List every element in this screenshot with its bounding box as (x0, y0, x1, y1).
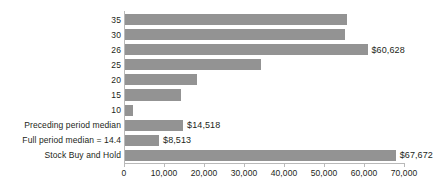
bar-category-label: Full period median = 14.4 (22, 136, 121, 145)
bar-track: $67,672 (125, 148, 427, 163)
x-axis-tick (404, 164, 405, 167)
bar-track: $8,513 (125, 133, 427, 148)
bar (125, 59, 261, 70)
bar-row: 20 (0, 72, 427, 87)
x-axis-tick-label: 40,000 (271, 169, 298, 178)
bar-row: 25 (0, 57, 427, 72)
bar-rows: 353026$60,62825201510Preceding period me… (0, 12, 427, 163)
x-axis-tick (364, 164, 365, 167)
x-axis-tick (124, 164, 125, 167)
x-axis-tick (284, 164, 285, 167)
bar-row: Stock Buy and Hold$67,672 (0, 148, 427, 163)
bar-category-label: 15 (111, 91, 121, 100)
bar-value-label: $14,518 (187, 121, 220, 130)
bar-value-label: $60,628 (372, 45, 405, 54)
bar-track (125, 27, 427, 42)
bar-row: 35 (0, 12, 427, 27)
bar-track: $14,518 (125, 118, 427, 133)
bar-track (125, 103, 427, 118)
bar-value-label: $8,513 (163, 136, 191, 145)
bar-category-label: 26 (111, 45, 121, 54)
x-axis-tick-label: 0 (122, 169, 127, 178)
bar-row: 26$60,628 (0, 42, 427, 57)
bar-track (125, 57, 427, 72)
x-axis-tick-label: 20,000 (191, 169, 218, 178)
bar-value-label: $67,672 (400, 151, 433, 160)
bar-track: $60,628 (125, 42, 427, 57)
x-axis-tick-labels: 010,00020,00030,00040,00050,00060,00070,… (124, 169, 404, 183)
x-axis-tick-label: 10,000 (151, 169, 178, 178)
bar-track (125, 12, 427, 27)
bar (125, 120, 183, 131)
bar (125, 74, 197, 85)
x-axis-tick-label: 60,000 (351, 169, 378, 178)
bar-category-label: Preceding period median (24, 121, 121, 130)
bar (125, 44, 368, 55)
bar-row: 10 (0, 103, 427, 118)
bar-category-label: 25 (111, 61, 121, 70)
bar-track (125, 87, 427, 102)
bar-row: Full period median = 14.4$8,513 (0, 133, 427, 148)
bar-track (125, 72, 427, 87)
x-axis-tick (164, 164, 165, 167)
bar-row: Preceding period median$14,518 (0, 118, 427, 133)
bar (125, 29, 345, 40)
bar-category-label: 30 (111, 30, 121, 39)
bar-category-label: 10 (111, 106, 121, 115)
bar-row: 15 (0, 87, 427, 102)
bar (125, 89, 181, 100)
x-axis-tick (324, 164, 325, 167)
bar-category-label: 20 (111, 76, 121, 85)
x-axis-tick-label: 50,000 (311, 169, 338, 178)
bar (125, 105, 133, 116)
bar-row: 30 (0, 27, 427, 42)
x-axis-tick (204, 164, 205, 167)
bar-category-label: Stock Buy and Hold (45, 151, 121, 160)
bar (125, 150, 396, 161)
bar (125, 14, 347, 25)
x-axis-tick (244, 164, 245, 167)
bar-category-label: 35 (111, 15, 121, 24)
bar (125, 135, 159, 146)
x-axis-tick-label: 30,000 (231, 169, 258, 178)
x-axis-tick-label: 70,000 (391, 169, 418, 178)
